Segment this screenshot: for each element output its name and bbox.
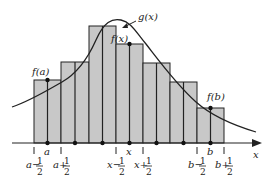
svg-text:2: 2 [146,167,152,177]
tick-a: a [44,146,50,157]
curve-label: g(x) [138,11,158,22]
svg-text:1: 1 [64,156,70,166]
fb-label: f(b) [206,91,225,102]
axis-label: x [253,149,259,160]
svg-text:2: 2 [119,167,125,177]
frac-b-plus: b+ 1 2 [215,156,233,177]
frac-b-minus: b− 1 2 [188,156,206,177]
svg-text:2: 2 [37,167,43,177]
tick-x: x [126,146,132,157]
svg-text:1: 1 [146,156,152,166]
histogram-diagram: g(x) f(a) f(x) f(b) x a x b a− 1 2 a+ 1 … [0,0,270,186]
svg-text:2: 2 [200,167,206,177]
svg-text:1: 1 [37,156,43,166]
svg-text:1: 1 [200,156,206,166]
fa-label: f(a) [31,66,50,77]
svg-text:2: 2 [227,167,233,177]
fx-label: f(x) [110,33,128,44]
tick-b: b [207,146,213,157]
frac-x-minus: x− 1 2 [107,156,125,177]
svg-text:1: 1 [119,156,125,166]
svg-text:2: 2 [64,167,70,177]
axis-arrow-icon [252,139,262,147]
gx-pointer [122,21,136,28]
svg-text:1: 1 [227,156,233,166]
frac-a-plus: a+ 1 2 [53,156,70,177]
frac-x-plus: x+ 1 2 [134,156,152,177]
frac-a-minus: a− 1 2 [26,156,43,177]
